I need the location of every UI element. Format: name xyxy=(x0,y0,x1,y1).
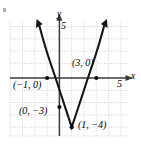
y-axis xyxy=(56,14,62,137)
y-axis-label: y xyxy=(57,10,61,20)
point-marker-y-intercept xyxy=(57,105,61,109)
y-axis-tick-label-5: 5 xyxy=(61,21,66,31)
label-y-intercept: (0, −3) xyxy=(19,106,47,116)
label-x-intercept-right: (3, 0) xyxy=(72,58,94,68)
point-marker-x-intercept-right xyxy=(94,76,98,80)
coordinate-plot xyxy=(0,0,141,146)
graph-figure: (−1, 0) (3, 0) (0, −3) (1, −4) y x 5 5 xyxy=(0,0,141,146)
point-marker-vertex xyxy=(70,125,74,129)
label-vertex: (1, −4) xyxy=(78,120,106,130)
label-x-intercept-left: (−1, 0) xyxy=(13,80,41,90)
point-marker-x-intercept-left xyxy=(45,76,49,80)
x-axis-tick-label-5: 5 xyxy=(117,79,122,89)
x-axis-label: x xyxy=(131,72,135,82)
